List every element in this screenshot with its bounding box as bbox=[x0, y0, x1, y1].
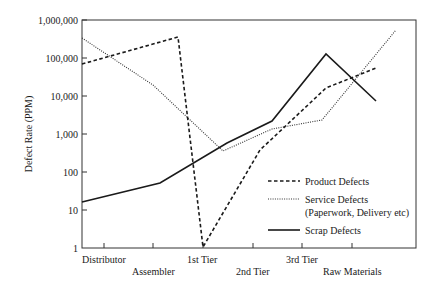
x-label-assembler: Assembler bbox=[132, 266, 175, 277]
y-axis: 1,000,000 100,000 10,000 1,000 100 10 1 … bbox=[23, 15, 87, 254]
legend-product-label: Product Defects bbox=[305, 176, 369, 187]
y-tick-label: 1 bbox=[73, 243, 78, 254]
y-tick-label: 1,000 bbox=[56, 129, 79, 140]
defect-rate-chart: 1,000,000 100,000 10,000 1,000 100 10 1 … bbox=[0, 0, 437, 291]
x-label-raw-materials: Raw Materials bbox=[323, 266, 382, 277]
legend: Product Defects Service Defects (Paperwo… bbox=[268, 176, 409, 236]
x-label-3rd-tier: 3rd Tier bbox=[286, 254, 319, 265]
y-tick-label: 1,000,000 bbox=[38, 15, 78, 26]
legend-service-label: Service Defects bbox=[305, 194, 368, 205]
y-tick-label: 100,000 bbox=[46, 53, 79, 64]
y-axis-title: Defect Rate (PPM) bbox=[23, 96, 35, 173]
legend-service-sublabel: (Paperwork, Delivery etc) bbox=[305, 207, 409, 219]
series-service-defects bbox=[82, 30, 396, 151]
y-tick-label: 10 bbox=[68, 205, 78, 216]
legend-scrap-label: Scrap Defects bbox=[305, 225, 361, 236]
x-label-distributor: Distributor bbox=[82, 254, 127, 265]
y-tick-label: 10,000 bbox=[51, 91, 79, 102]
x-label-1st-tier: 1st Tier bbox=[187, 254, 218, 265]
x-label-2nd-tier: 2nd Tier bbox=[236, 266, 270, 277]
y-tick-label: 100 bbox=[63, 167, 78, 178]
